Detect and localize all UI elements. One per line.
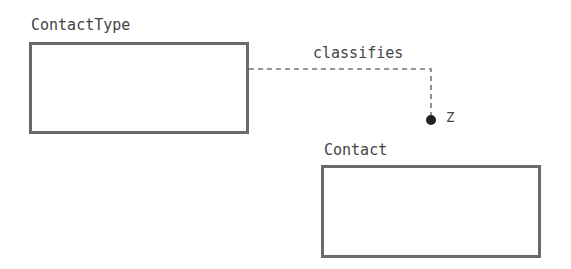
cardinality-label: Z — [446, 108, 454, 126]
entity-label-contact: Contact — [324, 141, 387, 159]
entity-box-contact[interactable] — [321, 165, 541, 258]
cardinality-dot-icon — [426, 115, 436, 125]
dashed-connector-line — [249, 69, 431, 118]
